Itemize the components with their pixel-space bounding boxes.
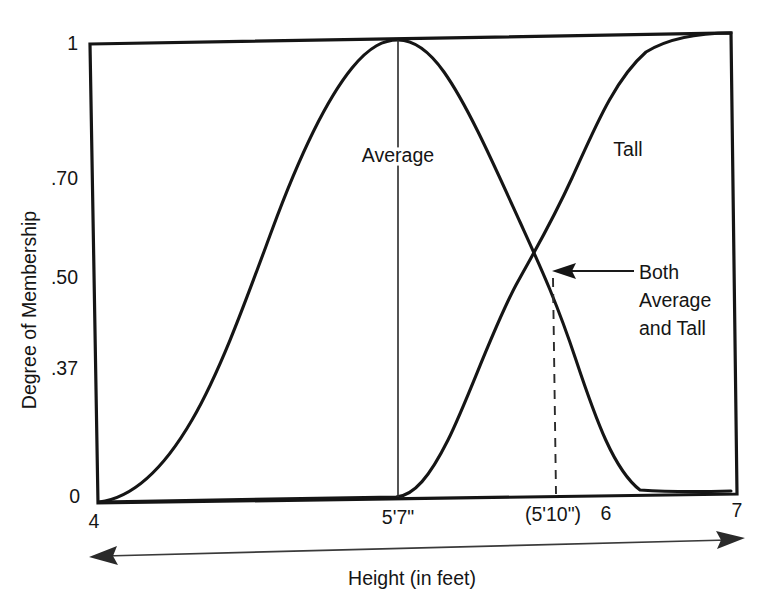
x-tick-label-5ft10: (5'10"): [525, 503, 581, 525]
reference-lines-group: [398, 40, 556, 497]
y-axis-title: Degree of Membership: [18, 211, 40, 409]
x-tick-label-5ft7: 5'7": [382, 506, 414, 528]
curve-labels-group: Average Tall: [362, 138, 643, 166]
fuzzy-membership-figure: 1 .70 .50 .37 0 4 5'7" (5'10") 6 7 Avera…: [0, 0, 763, 598]
annotation-line-and-tall: and Tall: [639, 317, 706, 339]
crossover-dashed-reference-line: [553, 278, 556, 494]
y-tick-label-37: .37: [51, 357, 78, 379]
y-tick-label-0: 0: [69, 485, 80, 507]
x-axis-double-arrow-line: [105, 540, 728, 556]
average-curve: [99, 40, 731, 502]
annotation-line-average: Average: [639, 289, 711, 311]
crossover-annotation-group: Both Average and Tall: [639, 261, 711, 339]
curves-group: [99, 33, 731, 502]
x-tick-label-4: 4: [89, 510, 100, 532]
x-tick-label-6: 6: [601, 502, 612, 524]
y-axis-title-group: Degree of Membership: [18, 211, 40, 409]
annotation-line-both: Both: [639, 261, 679, 283]
y-tick-label-1: 1: [67, 32, 78, 54]
chart-svg: 1 .70 .50 .37 0 4 5'7" (5'10") 6 7 Avera…: [0, 0, 763, 598]
tall-curve: [100, 33, 731, 502]
y-tick-label-70: .70: [51, 167, 78, 189]
x-tick-label-7: 7: [732, 499, 743, 521]
y-tick-label-50: .50: [51, 266, 78, 288]
x-axis-title-group: Height (in feet): [89, 531, 745, 589]
x-axis-title: Height (in feet): [348, 567, 476, 589]
x-axis-tick-labels: 4 5'7" (5'10") 6 7: [89, 499, 743, 532]
average-curve-label: Average: [362, 144, 434, 166]
tall-curve-label: Tall: [613, 138, 642, 160]
crossover-leader-group: [552, 263, 634, 279]
y-axis-tick-labels: 1 .70 .50 .37 0: [51, 32, 80, 507]
